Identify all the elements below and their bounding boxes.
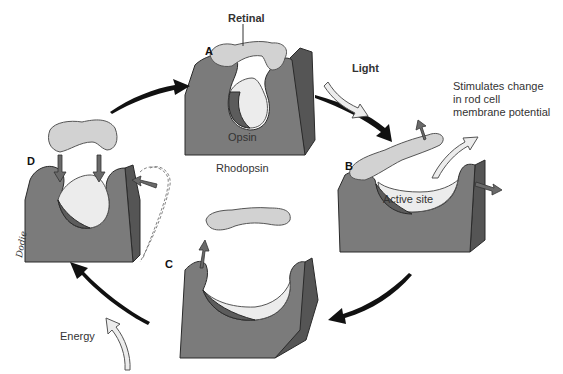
stage-a-rhodopsin: Retinal A Opsin Rhodopsin [185,12,315,174]
outcome-label-line2: in rod cell [453,93,500,105]
stage-d-retinal [48,120,117,152]
rhodopsin-label: Rhodopsin [216,162,269,174]
outcome-label-line3: membrane potential [453,106,550,118]
outcome-label-line1: Stimulates change [453,80,544,92]
opsin-label: Opsin [228,131,257,143]
retinal-label: Retinal [228,12,265,24]
rhodopsin-cycle-diagram: Retinal A Opsin Rhodopsin B Active site … [0,0,563,374]
stage-b-activated: B Active site Stimulates change in rod c… [338,80,550,252]
cycle-arrow-a-to-b [315,95,392,142]
dashed-conformation-outline [140,167,168,258]
stage-a-letter: A [205,45,213,57]
stage-b-retinal [350,133,444,180]
cycle-arrow-d-to-a [110,79,190,114]
energy-label: Energy [60,330,95,342]
stage-c-letter: C [165,258,173,270]
active-site-label: Active site [383,193,433,205]
cycle-arrow-c-to-d [70,262,150,325]
stage-d-letter: D [27,155,35,167]
cycle-arrow-b-to-c [328,273,412,324]
stage-c-released: C [165,208,318,358]
stage-d-regenerating: D Dodie [14,120,170,262]
stage-b-letter: B [345,160,353,172]
light-label: Light [352,62,379,74]
energy-arrow [106,318,130,370]
stage-a-retinal [210,42,287,70]
stage-c-retinal [206,208,290,230]
